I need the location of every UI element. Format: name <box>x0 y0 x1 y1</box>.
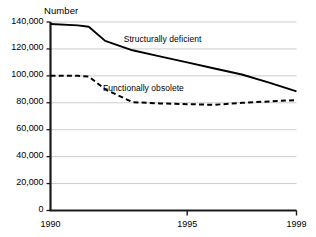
y-tick-label: 140,000 <box>0 16 44 26</box>
x-tick-label: 1999 <box>277 219 316 229</box>
y-tick-label: 120,000 <box>0 42 44 52</box>
chart-container: Number 020,00040,00060,00080,000100,0001… <box>0 0 315 237</box>
x-tick-label: 1990 <box>31 219 71 229</box>
y-tick-label: 100,000 <box>0 69 44 79</box>
series-annotation-2: Functionally obsolete <box>103 83 184 93</box>
y-tick-label: 80,000 <box>0 96 44 106</box>
axes <box>47 22 297 216</box>
x-tick-label: 1995 <box>167 219 207 229</box>
y-tick-label: 40,000 <box>0 150 44 160</box>
y-tick-label: 0 <box>0 204 44 214</box>
series-annotation-1: Structurally deficient <box>124 34 202 44</box>
y-tick-label: 20,000 <box>0 177 44 187</box>
y-tick-label: 60,000 <box>0 123 44 133</box>
